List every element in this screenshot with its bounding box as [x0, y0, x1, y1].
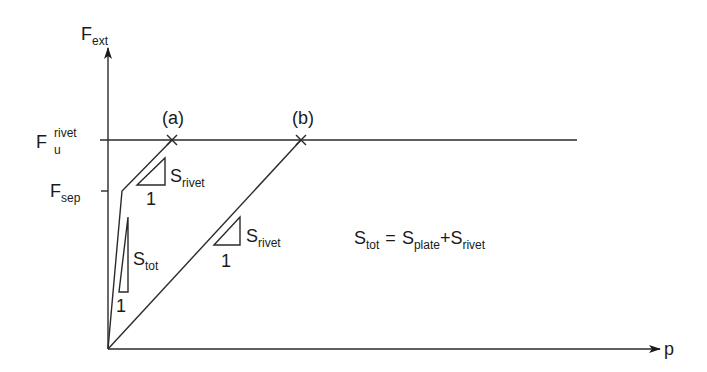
slope-rivet-b-label: Srivet — [246, 226, 281, 250]
fu-rivet-label: F — [36, 132, 47, 152]
fu-rivet-sup: rivet — [54, 126, 77, 140]
fsep-label: Fsep — [50, 181, 81, 205]
y-axis-label: Fext — [81, 24, 109, 48]
x-axis-label: p — [664, 339, 674, 359]
point-b-label: (b) — [292, 108, 314, 128]
slope-triangle-tot — [119, 217, 128, 292]
slope-rivet-b-run: 1 — [221, 251, 231, 271]
slope-rivet-a-run: 1 — [146, 189, 156, 209]
force-displacement-diagram: Fext p F rivet u Fsep (a) (b) Srivet 1 S… — [0, 0, 707, 372]
curve-a — [108, 140, 172, 349]
slope-tot-label: Stot — [133, 249, 159, 273]
point-a-label: (a) — [162, 108, 184, 128]
stiffness-equation: Stot=Splate+Srivet — [354, 228, 486, 252]
slope-rivet-a-label: Srivet — [170, 166, 205, 190]
slope-tot-run: 1 — [116, 296, 126, 316]
fu-rivet-sub: u — [54, 143, 61, 157]
